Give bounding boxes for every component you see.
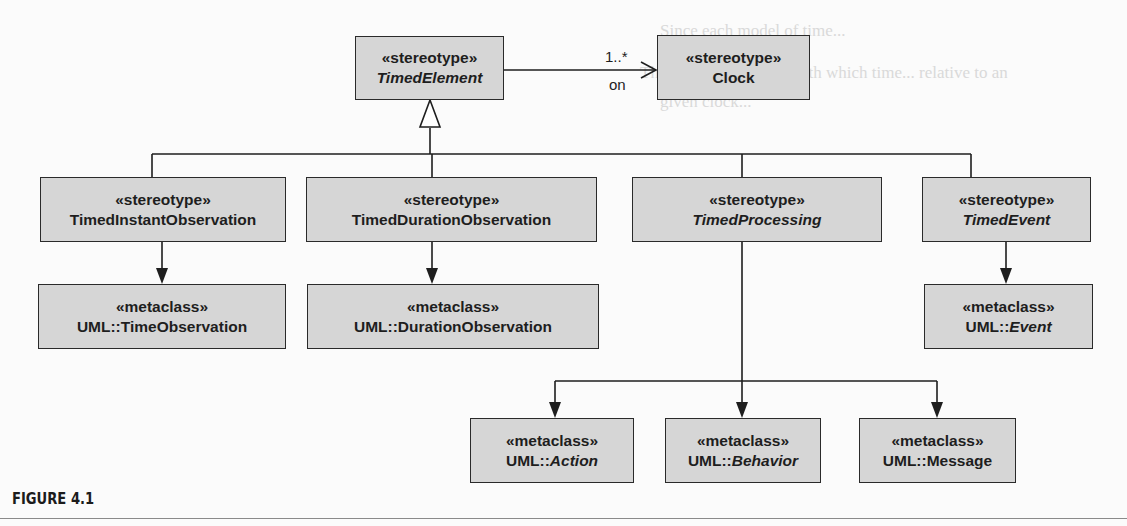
stereotype-label: «stereotype» [382, 48, 478, 68]
metaclass-duration-observation[interactable]: «metaclass» UML::DurationObservation [307, 284, 599, 349]
generalization-triangle-icon [420, 100, 440, 127]
stereotype-label: «metaclass» [891, 431, 983, 451]
metaclass-time-observation[interactable]: «metaclass» UML::TimeObservation [38, 284, 286, 349]
class-name: UML::Event [965, 317, 1051, 337]
stereotype-label: «stereotype» [686, 48, 782, 68]
stereotype-label: «stereotype» [404, 190, 500, 210]
caption-rule [0, 518, 1127, 519]
class-timed-duration-observation[interactable]: «stereotype» TimedDurationObservation [306, 177, 597, 242]
stereotype-label: «metaclass» [697, 431, 789, 451]
stereotype-label: «stereotype» [709, 190, 805, 210]
metaclass-behavior[interactable]: «metaclass» UML::Behavior [665, 418, 821, 483]
class-name: TimedDurationObservation [352, 210, 552, 230]
stereotype-label: «metaclass» [962, 297, 1054, 317]
stereotype-label: «stereotype» [959, 190, 1055, 210]
class-name: TimedElement [377, 68, 483, 88]
arrowhead-icon [1000, 268, 1012, 284]
class-timed-event[interactable]: «stereotype» TimedEvent [922, 177, 1091, 242]
stereotype-label: «stereotype» [115, 190, 211, 210]
metaclass-action[interactable]: «metaclass» UML::Action [470, 418, 634, 483]
arrowhead-icon [156, 268, 168, 284]
class-name: UML::Behavior [688, 451, 798, 471]
arrowhead-icon [931, 402, 943, 418]
association-multiplicity: 1..* [605, 48, 628, 65]
class-name: UML::Message [883, 451, 992, 471]
class-name: TimedInstantObservation [70, 210, 257, 230]
arrowhead-icon [426, 268, 438, 284]
class-name: UML::Action [506, 451, 598, 471]
metaclass-event[interactable]: «metaclass» UML::Event [924, 284, 1093, 349]
figure-caption: FIGURE 4.1 [12, 489, 94, 508]
stereotype-label: «metaclass» [116, 297, 208, 317]
association-role: on [609, 76, 626, 93]
class-timed-processing[interactable]: «stereotype» TimedProcessing [632, 177, 882, 242]
class-name: TimedEvent [963, 210, 1051, 230]
class-timed-instant-observation[interactable]: «stereotype» TimedInstantObservation [40, 177, 286, 242]
class-timed-element[interactable]: «stereotype» TimedElement [355, 36, 504, 100]
metaclass-message[interactable]: «metaclass» UML::Message [859, 418, 1016, 483]
class-name: Clock [712, 68, 754, 88]
stereotype-label: «metaclass» [407, 297, 499, 317]
arrowhead-icon [736, 402, 748, 418]
class-name: UML::TimeObservation [77, 317, 247, 337]
class-name: UML::DurationObservation [354, 317, 552, 337]
class-name: TimedProcessing [693, 210, 822, 230]
stereotype-label: «metaclass» [506, 431, 598, 451]
arrowhead-icon [549, 402, 561, 418]
class-clock[interactable]: «stereotype» Clock [657, 35, 810, 100]
